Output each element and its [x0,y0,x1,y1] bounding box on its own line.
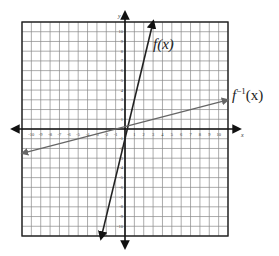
f-inverse-label: f−1(x) [232,86,263,104]
x-tick-label: -7 [58,132,62,137]
x-tick-label: -5 [76,132,80,137]
y-tick-label: -1 [119,136,123,141]
coordinate-plane: -10-9-8-7-6-5-4-3-2-112345678910-10-9-8-… [0,0,279,256]
x-tick-label: 6 [180,132,183,137]
x-tick-label: 2 [143,132,145,137]
f-inverse-arg: (x) [246,87,264,103]
x-tick-label: 1 [133,132,135,137]
x-tick-label: -8 [48,132,52,137]
y-axis-label: y [117,13,121,19]
x-tick-label: 3 [152,132,155,137]
x-tick-label: 8 [199,132,202,137]
f-label: f(x) [153,36,174,53]
x-tick-label: 5 [171,132,174,137]
x-tick-label: -9 [39,132,43,137]
y-tick-label: 1 [121,117,123,122]
x-tick-label: 9 [208,132,211,137]
y-tick-label: 10 [119,29,124,34]
y-tick-label: 2 [121,107,123,112]
x-tick-label: -2 [104,132,108,137]
y-tick-label: -10 [117,224,124,229]
x-tick-label: 4 [161,132,164,137]
f-line [101,21,153,239]
x-axis-label: x [240,132,244,138]
x-tick-label: -10 [28,132,35,137]
x-tick-label: -1 [114,132,118,137]
f-inverse-sup: −1 [236,86,246,96]
x-tick-label: 7 [189,132,192,137]
x-tick-label: -6 [67,132,71,137]
x-tick-label: 10 [216,132,221,137]
